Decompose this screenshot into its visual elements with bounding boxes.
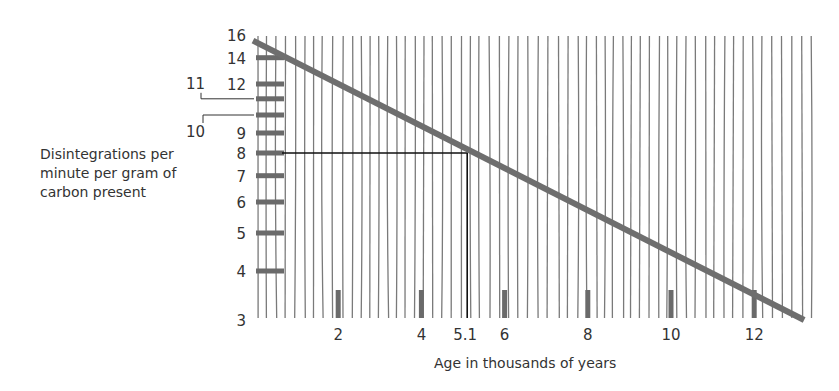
hatch-line xyxy=(396,36,397,318)
y-tick-bar xyxy=(256,200,284,205)
y-axis-title-line-2: minute per gram of xyxy=(40,164,176,183)
hatch-line xyxy=(753,36,754,318)
hatch-line xyxy=(605,36,606,318)
x-axis-title: Age in thousands of years xyxy=(434,355,616,371)
y-tick-label: 16 xyxy=(227,27,246,45)
hatch-line xyxy=(586,36,587,318)
x-tick-bar xyxy=(502,290,507,318)
hatch-line xyxy=(547,36,548,318)
y-tick-bar xyxy=(256,113,284,118)
hatch-line xyxy=(596,36,597,318)
hatch-line xyxy=(578,36,579,318)
y-tick-label: 3 xyxy=(236,312,246,330)
hatch-line xyxy=(489,36,490,318)
x-tick-bar xyxy=(585,290,590,318)
hatch-line xyxy=(623,36,624,318)
hatch-line xyxy=(479,36,480,318)
y-tick-label: 8 xyxy=(236,145,246,163)
hatch-line xyxy=(387,36,388,318)
x-tick-label: 12 xyxy=(745,326,764,344)
y-tick-bar xyxy=(256,269,284,274)
hatch-line xyxy=(442,36,443,318)
x-tick-label: 5.1 xyxy=(453,326,477,344)
y-tick-label: 9 xyxy=(236,125,246,143)
y-tick-bar xyxy=(256,96,284,101)
hatch-line xyxy=(415,36,416,318)
hatch-line xyxy=(631,36,632,318)
y-tick-label: 12 xyxy=(227,76,246,94)
hatch-line xyxy=(639,36,640,318)
hatch-line xyxy=(802,36,803,318)
y-axis-title-line-1: Disintegrations per xyxy=(40,145,176,164)
hatch-line xyxy=(352,36,353,318)
y-tick-label-10: 10 xyxy=(186,123,205,141)
y-tick-bar xyxy=(256,231,284,236)
hatch-line xyxy=(470,36,471,318)
x-tick-bar xyxy=(336,290,341,318)
hatch-line xyxy=(733,36,734,318)
hatch-line xyxy=(305,36,306,318)
hatch-line xyxy=(772,36,773,318)
hatch-line xyxy=(508,36,509,318)
x-tick-label: 2 xyxy=(333,326,343,344)
hatch-line xyxy=(612,36,613,318)
x-tick-bar xyxy=(419,290,424,318)
reference-line xyxy=(282,153,467,318)
x-tick-bar xyxy=(669,290,674,318)
x-tick-label: 4 xyxy=(417,326,427,344)
hatch-line xyxy=(295,36,296,318)
hatch-line xyxy=(676,36,677,318)
y-axis-title-line-3: carbon present xyxy=(40,183,176,202)
y-tick-label: 6 xyxy=(236,194,246,212)
hatch-line xyxy=(343,36,344,318)
hatch-line xyxy=(649,36,650,318)
hatch-line xyxy=(361,36,362,318)
y-tick-bar xyxy=(256,82,284,87)
hatch-line xyxy=(761,36,762,318)
hatch-line xyxy=(423,36,424,318)
x-tick-label: 6 xyxy=(500,326,510,344)
y-tick-bar xyxy=(256,131,284,136)
hatch-line xyxy=(558,36,559,318)
y-tick-label: 4 xyxy=(236,263,246,281)
y-tick-label: 14 xyxy=(227,50,246,68)
x-tick-label: 10 xyxy=(661,326,680,344)
hatch-line xyxy=(811,36,812,318)
hatch-line xyxy=(378,36,379,318)
hatch-line xyxy=(685,36,686,318)
hatch-line xyxy=(781,36,782,318)
hatch-line xyxy=(724,36,725,318)
x-tick-label: 8 xyxy=(583,326,593,344)
y-tick-label: 5 xyxy=(236,225,246,243)
y-tick-label-11: 11 xyxy=(186,75,205,93)
y-axis-title: Disintegrations per minute per gram of c… xyxy=(40,145,176,202)
hatch-line xyxy=(659,36,660,318)
hatch-line xyxy=(695,36,696,318)
hatch-line xyxy=(567,36,568,318)
hatch-line xyxy=(667,36,668,318)
y-tick-label: 7 xyxy=(236,168,246,186)
y-tick-bar xyxy=(256,173,284,178)
hatch-line xyxy=(538,36,539,318)
y-tick-bar xyxy=(256,151,284,156)
leader-line-10 xyxy=(203,115,254,123)
